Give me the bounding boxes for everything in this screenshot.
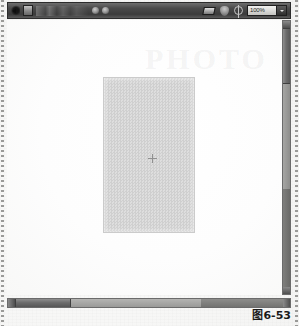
scroll-down-arrow-icon[interactable] (283, 287, 290, 294)
zoom-level-value: 100% (248, 6, 276, 15)
scroll-up-arrow-icon[interactable] (283, 21, 290, 28)
document-canvas[interactable]: PHOTO (7, 20, 291, 295)
toolbar: 100% (7, 2, 291, 19)
smudge-tool-icon[interactable] (102, 7, 109, 14)
back-arrow-icon[interactable] (11, 5, 20, 16)
mask-shield-icon[interactable] (220, 6, 229, 16)
scanned-page: 100% PHOTO 图 (0, 0, 299, 326)
chevron-down-icon[interactable] (276, 6, 286, 15)
scan-edge-left (1, 0, 4, 326)
horizontal-scrollbar-track[interactable] (71, 299, 201, 307)
scroll-left-arrow-icon[interactable] (8, 299, 15, 307)
vertical-scrollbar-thumb[interactable] (283, 28, 290, 84)
vertical-scrollbar-track-lower[interactable] (283, 189, 290, 287)
horizontal-scrollbar-thumb[interactable] (15, 299, 71, 307)
background-watermark-text: PHOTO (145, 42, 268, 76)
tool-options-strip[interactable] (36, 6, 88, 16)
figure-caption: 图6-53 (252, 306, 291, 322)
transparent-checker-layer[interactable] (104, 78, 194, 232)
toolbar-right-icon-group (203, 6, 243, 16)
application-window: 100% PHOTO (7, 2, 291, 308)
scan-edge-right (295, 0, 298, 326)
vertical-scrollbar[interactable] (282, 20, 291, 295)
layers-palette-icon[interactable] (202, 7, 216, 15)
toolbar-spacer (112, 10, 203, 11)
target-alignment-icon[interactable] (234, 6, 243, 15)
zoom-level-select[interactable]: 100% (247, 5, 287, 16)
horizontal-scrollbar[interactable] (7, 298, 291, 308)
tool-preset-icon[interactable] (23, 5, 33, 16)
center-reference-point-icon (148, 154, 157, 163)
blur-tool-icon[interactable] (92, 7, 99, 14)
